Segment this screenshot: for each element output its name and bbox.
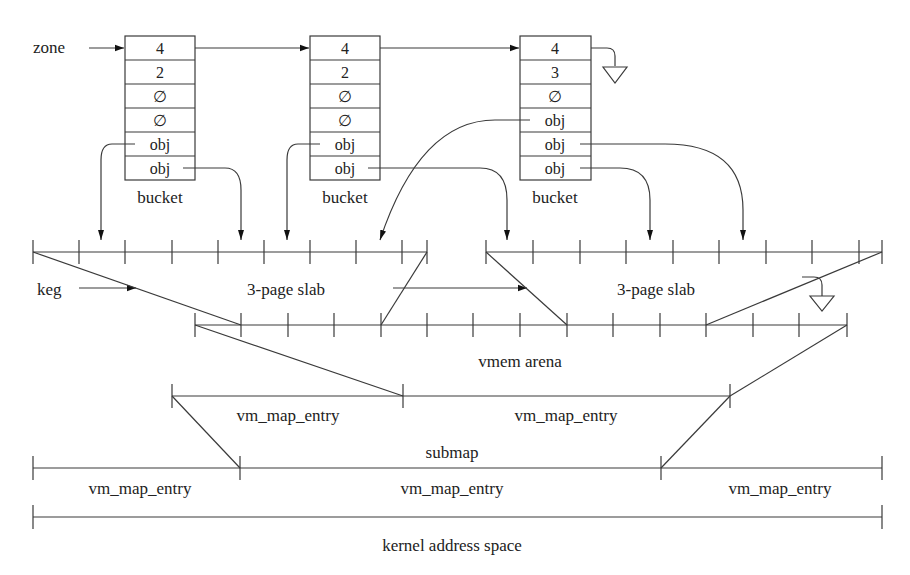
kernel-entry-left-label: vm_map_entry (89, 479, 192, 498)
obj-pointer-arrow (368, 168, 507, 240)
obj-pointer-arrow (580, 144, 743, 240)
bucket-cell: obj (545, 160, 565, 178)
bucket-cell: obj (150, 136, 170, 154)
projection-line (33, 252, 241, 325)
bucket-label: bucket (322, 188, 368, 207)
projection-line (706, 252, 882, 325)
ground-icon (603, 67, 627, 83)
bucket-cell: 2 (341, 64, 349, 81)
submap-entry-right-label: vm_map_entry (515, 406, 618, 425)
uma-memory-diagram: zone 4 2 ∅ ∅ obj obj bucket 4 2 ∅ ∅ obj … (0, 0, 910, 575)
kernel-address-space-label: kernel address space (382, 536, 522, 555)
kernel-entry-middle-label: vm_map_entry (401, 479, 504, 498)
bucket-3: 4 3 ∅ obj obj obj bucket (520, 36, 591, 207)
projection-line (661, 396, 730, 468)
slab-right-label: 3-page slab (617, 280, 695, 299)
projection-line (730, 325, 847, 396)
bucket-1: 4 2 ∅ ∅ obj obj bucket (125, 36, 195, 207)
bucket-cell: 3 (551, 64, 559, 81)
zone-label: zone (33, 38, 65, 57)
bucket-cell: 4 (341, 40, 349, 57)
projection-line (172, 396, 240, 468)
bucket-cell: obj (545, 112, 565, 130)
kernel-address-space-line (33, 505, 882, 529)
bucket-cell: ∅ (338, 112, 352, 129)
bucket-cell: 4 (156, 40, 164, 57)
bucket-cell: ∅ (338, 88, 352, 105)
slab-right (486, 240, 882, 264)
kernel-entry-right-label: vm_map_entry (729, 479, 832, 498)
bucket-label: bucket (532, 188, 578, 207)
bucket-cell: obj (335, 160, 355, 178)
bucket-2: 4 2 ∅ ∅ obj obj bucket (310, 36, 380, 207)
null-link (591, 48, 615, 66)
bucket-cell: ∅ (153, 88, 167, 105)
submap-line (172, 384, 730, 408)
slab-left-label: 3-page slab (247, 280, 325, 299)
vmem-arena-label: vmem arena (478, 352, 562, 371)
ground-icon (810, 296, 834, 311)
bucket-label: bucket (137, 188, 183, 207)
slab-left (33, 240, 427, 264)
projection-line (195, 325, 403, 396)
bucket-cell: obj (545, 136, 565, 154)
submap-label: submap (426, 443, 479, 462)
bucket-cell: ∅ (548, 88, 562, 105)
bucket-cell: 2 (156, 64, 164, 81)
null-link (802, 277, 822, 296)
bucket-cell: ∅ (153, 112, 167, 129)
bucket-cell: obj (335, 136, 355, 154)
submap-entry-left-label: vm_map_entry (237, 406, 340, 425)
bucket-cell: obj (150, 160, 170, 178)
bucket-cell: 4 (551, 40, 559, 57)
keg-label: keg (37, 280, 62, 299)
vmem-arena-line (195, 313, 847, 337)
